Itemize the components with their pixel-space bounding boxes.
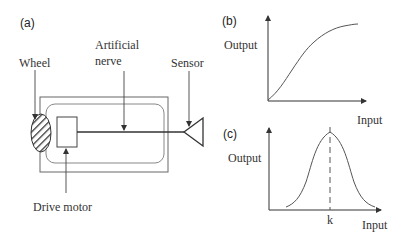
panel-c-xlabel: Input (362, 218, 388, 232)
panel-b-chart: (b) Output Input (222, 14, 383, 127)
panel-c-peak-label: k (327, 213, 333, 227)
drive-motor-label: Drive motor (33, 200, 92, 214)
panel-b-label: (b) (222, 14, 237, 28)
panel-b-ylabel: Output (224, 38, 258, 52)
figure-canvas: (a) Wheel Artificial nerve Sensor Drive … (0, 0, 409, 243)
wheel-label: Wheel (19, 56, 51, 70)
panel-a-label: (a) (20, 16, 35, 30)
sensor-label: Sensor (171, 56, 204, 70)
panel-b-curve (268, 24, 358, 100)
drive-motor-box (57, 117, 77, 147)
panel-c-chart: (c) Output Input k (223, 127, 388, 232)
nerve-label-line2: nerve (95, 54, 122, 68)
nerve-label-line1: Artificial (95, 38, 140, 52)
panel-b-xlabel: Input (357, 113, 383, 127)
panel-c-label: (c) (223, 127, 237, 141)
sensor-icon (184, 118, 203, 146)
panel-a: (a) Wheel Artificial nerve Sensor Drive … (19, 16, 204, 214)
wheel-icon (31, 114, 51, 152)
panel-c-ylabel: Output (228, 151, 262, 165)
